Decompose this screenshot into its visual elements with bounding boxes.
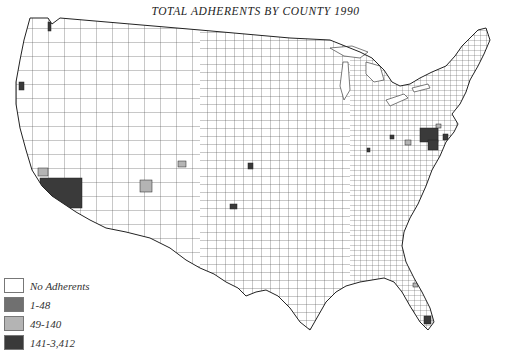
legend-label: No Adherents: [30, 280, 90, 292]
legend-swatch: [4, 278, 24, 293]
shaded-county: [140, 180, 152, 192]
shaded-county: [38, 168, 48, 176]
legend-item-no-adherents: No Adherents: [4, 276, 90, 295]
legend-label: 49-140: [30, 318, 61, 330]
legend-item-141-3412: 141-3,412: [4, 333, 90, 352]
legend-label: 1-48: [30, 299, 50, 311]
legend-item-1-48: 1-48: [4, 295, 90, 314]
shaded-county: [40, 178, 82, 208]
map-title: TOTAL ADHERENTS BY COUNTY 1990: [0, 5, 511, 17]
legend-item-49-140: 49-140: [4, 314, 90, 333]
shaded-county: [424, 316, 431, 324]
shaded-county: [19, 82, 24, 90]
shaded-county: [390, 135, 394, 139]
shaded-county: [443, 134, 448, 140]
legend-swatch: [4, 297, 24, 312]
shaded-county: [408, 310, 413, 314]
shaded-county: [405, 140, 411, 145]
legend-label: 141-3,412: [30, 337, 75, 349]
legend-swatch: [4, 335, 24, 350]
legend-swatch: [4, 316, 24, 331]
shaded-county: [48, 22, 51, 31]
shaded-county: [367, 148, 370, 152]
shaded-county: [436, 124, 441, 128]
shaded-county: [428, 140, 438, 150]
shaded-county: [178, 161, 186, 167]
shaded-county: [230, 204, 237, 209]
shaded-county: [248, 163, 253, 169]
legend: No Adherents 1-48 49-140 141-3,412: [4, 276, 90, 352]
